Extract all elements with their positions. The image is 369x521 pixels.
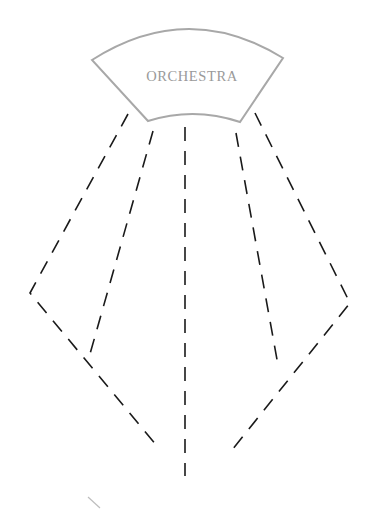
dashed-sightlines [30,113,350,476]
outer-right-path [228,113,350,455]
orchestra-seating-diagram: ORCHESTRA [0,0,369,521]
inner-left-path [90,131,153,354]
orchestra-label: ORCHESTRA [146,68,238,84]
outer-left-path [30,114,157,446]
inner-right-path [236,133,278,365]
stray-pencil-mark [88,497,100,508]
orchestra-stage: ORCHESTRA [92,29,283,122]
